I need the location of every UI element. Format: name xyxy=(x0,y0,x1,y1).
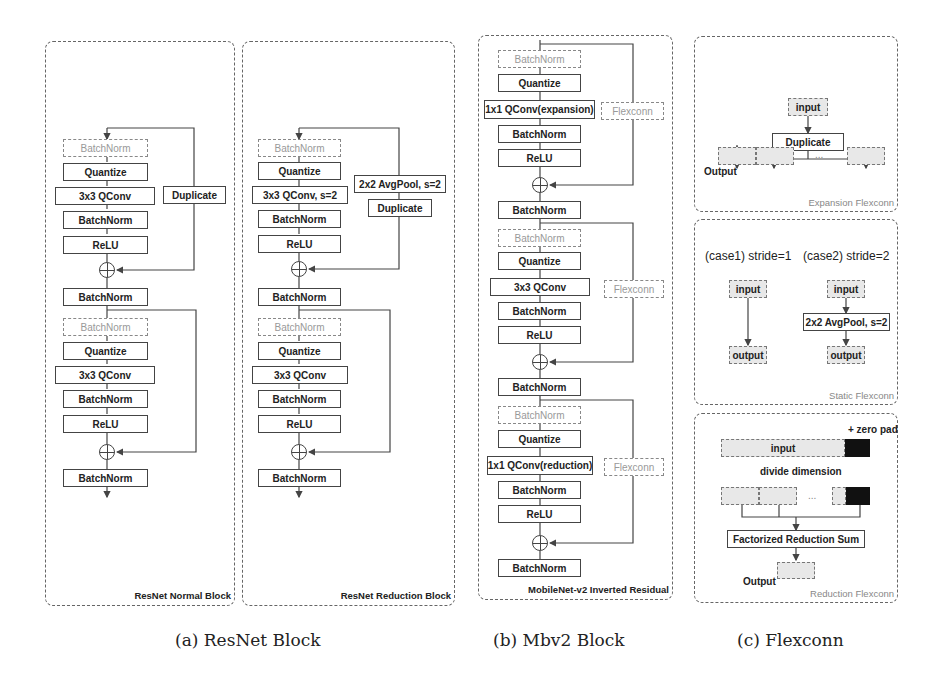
output-chunk xyxy=(756,147,794,165)
zero-pad-chunk xyxy=(846,487,870,505)
input-box: input xyxy=(729,280,767,298)
batchnorm-box: BatchNorm xyxy=(258,210,341,228)
add-node-icon xyxy=(291,261,307,277)
output-label: Output xyxy=(704,166,737,177)
output-label: Output xyxy=(743,576,776,587)
output-box: output xyxy=(729,346,767,364)
qconv-box: 3x3 QConv xyxy=(252,366,348,384)
panel-title: Reduction Flexconn xyxy=(810,588,894,599)
relu-box: ReLU xyxy=(258,415,341,433)
quantize-box: Quantize xyxy=(258,162,341,180)
batchnorm-box: BatchNorm xyxy=(498,406,581,424)
chunk xyxy=(721,487,759,505)
panel-title: Static Flexconn xyxy=(829,390,894,401)
batchnorm-box: BatchNorm xyxy=(498,125,581,143)
batchnorm-box: BatchNorm xyxy=(258,288,341,306)
batchnorm-box: BatchNorm xyxy=(63,390,148,408)
case1-label: (case1) stride=1 xyxy=(705,249,791,263)
batchnorm-box: BatchNorm xyxy=(258,139,341,157)
input-box: input xyxy=(788,98,828,116)
qconv-reduction-box: 1x1 QConv(reduction) xyxy=(487,456,593,475)
case2-label: (case2) stride=2 xyxy=(803,249,889,263)
panel-title: ResNet Normal Block xyxy=(134,590,231,601)
batchnorm-box: BatchNorm xyxy=(498,559,581,577)
qconv-box: 3x3 QConv xyxy=(55,187,155,205)
chunk xyxy=(832,487,846,505)
zero-pad-block xyxy=(845,439,870,457)
caption-c: (c) Flexconn xyxy=(737,630,844,650)
qconv-expansion-box: 1x1 QConv(expansion) xyxy=(484,100,595,119)
expansion-flexconn-panel: Expansion Flexconn xyxy=(694,36,898,212)
batchnorm-box: BatchNorm xyxy=(498,50,581,68)
batchnorm-box: BatchNorm xyxy=(63,318,148,336)
relu-box: ReLU xyxy=(258,235,341,253)
quantize-box: Quantize xyxy=(498,252,581,270)
quantize-box: Quantize xyxy=(498,430,581,448)
avgpool-box: 2x2 AvgPool, s=2 xyxy=(803,313,890,331)
chunk xyxy=(759,487,797,505)
qconv-box: 3x3 QConv xyxy=(490,278,590,296)
factorized-sum-box: Factorized Reduction Sum xyxy=(727,530,865,548)
batchnorm-box: BatchNorm xyxy=(63,211,148,229)
add-node-icon xyxy=(532,354,548,370)
batchnorm-box: BatchNorm xyxy=(258,469,341,487)
quantize-box: Quantize xyxy=(63,342,148,360)
add-node-icon xyxy=(532,535,548,551)
relu-box: ReLU xyxy=(63,236,148,254)
quantize-box: Quantize xyxy=(63,163,148,181)
output-chunk xyxy=(718,147,756,165)
output-chunk xyxy=(847,147,885,165)
quantize-box: Quantize xyxy=(498,74,581,92)
static-flexconn-panel: Static Flexconn xyxy=(694,219,898,405)
add-node-icon xyxy=(99,444,115,460)
add-node-icon xyxy=(532,177,548,193)
batchnorm-box: BatchNorm xyxy=(63,139,148,157)
relu-box: ReLU xyxy=(63,415,148,433)
duplicate-box: Duplicate xyxy=(163,186,226,204)
add-node-icon xyxy=(291,444,307,460)
ellipsis: ... xyxy=(815,149,823,160)
qconv-box: 3x3 QConv xyxy=(55,366,155,384)
add-node-icon xyxy=(99,262,115,278)
caption-a: (a) ResNet Block xyxy=(175,630,321,650)
output-box xyxy=(777,562,815,579)
batchnorm-box: BatchNorm xyxy=(498,481,581,499)
flexconn-box: Flexconn xyxy=(601,102,664,120)
caption-b: (b) Mbv2 Block xyxy=(493,630,625,650)
input-bar: input xyxy=(721,439,845,457)
batchnorm-box: BatchNorm xyxy=(258,390,341,408)
relu-box: ReLU xyxy=(498,505,581,523)
batchnorm-box: BatchNorm xyxy=(498,229,581,247)
flexconn-box: Flexconn xyxy=(604,280,664,298)
batchnorm-box: BatchNorm xyxy=(258,318,341,336)
batchnorm-box: BatchNorm xyxy=(498,378,581,396)
batchnorm-box: BatchNorm xyxy=(63,288,148,306)
duplicate-box: Duplicate xyxy=(368,199,432,217)
batchnorm-box: BatchNorm xyxy=(498,302,581,320)
qconv-box: 3x3 QConv, s=2 xyxy=(252,186,348,204)
flexconn-box: Flexconn xyxy=(604,458,664,476)
panel-title: Expansion Flexconn xyxy=(808,197,894,208)
panel-title: MobileNet-v2 Inverted Residual xyxy=(528,584,669,595)
ellipsis: ... xyxy=(808,490,816,501)
avgpool-box: 2x2 AvgPool, s=2 xyxy=(354,175,446,193)
relu-box: ReLU xyxy=(498,149,581,167)
quantize-box: Quantize xyxy=(258,342,341,360)
relu-box: ReLU xyxy=(498,326,581,344)
input-box: input xyxy=(827,280,865,298)
zero-pad-label: + zero pad xyxy=(848,424,898,435)
batchnorm-box: BatchNorm xyxy=(498,201,581,219)
panel-title: ResNet Reduction Block xyxy=(341,590,451,601)
divide-label: divide dimension xyxy=(760,466,842,477)
output-box: output xyxy=(827,346,865,364)
batchnorm-box: BatchNorm xyxy=(63,469,148,487)
